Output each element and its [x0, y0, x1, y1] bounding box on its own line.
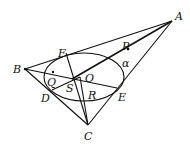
label-e: E — [117, 91, 126, 104]
label-c: C — [84, 130, 93, 143]
point-b-dot — [24, 68, 26, 70]
label-d: D — [40, 92, 50, 105]
label-o: O — [85, 72, 94, 85]
label-f: F — [57, 47, 66, 60]
point-q-dot — [52, 71, 54, 73]
label-r: R — [87, 89, 96, 102]
label-a: A — [174, 10, 183, 23]
side-ab — [25, 21, 172, 69]
label-s: S — [66, 82, 74, 95]
label-alpha: α — [122, 57, 130, 70]
label-p: P — [121, 40, 130, 53]
side-ca — [88, 21, 172, 125]
geometry-diagram: A B C D E F P O S Q R α — [0, 0, 190, 149]
label-q: Q — [47, 76, 56, 89]
label-b: B — [12, 63, 21, 76]
